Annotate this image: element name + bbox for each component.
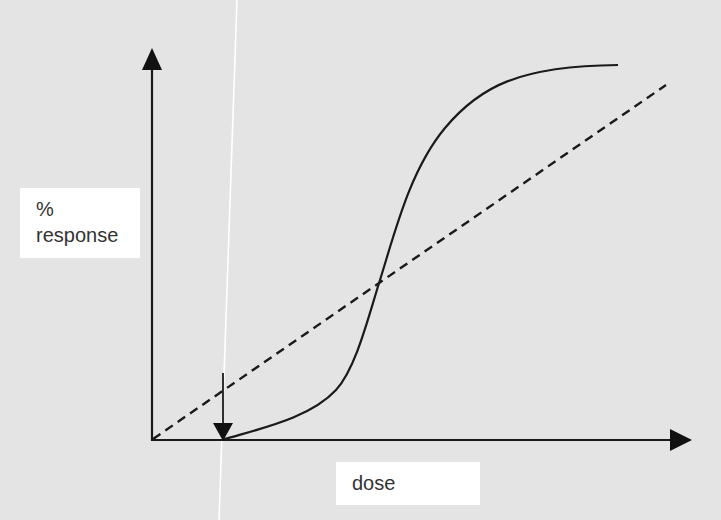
scan-artifact-line bbox=[219, 0, 237, 520]
y-axis-arrowhead-icon bbox=[142, 48, 162, 70]
linear-response-dashed-line bbox=[153, 85, 666, 439]
x-axis-arrowhead-icon bbox=[670, 429, 692, 451]
x-axis-label-box: dose bbox=[336, 462, 480, 505]
dose-response-diagram bbox=[0, 0, 721, 520]
y-axis-label-response: response bbox=[36, 222, 140, 248]
x-axis-label-dose: dose bbox=[352, 472, 395, 494]
sigmoid-response-curve bbox=[222, 65, 618, 440]
y-axis-label-box: % response bbox=[20, 188, 140, 258]
y-axis-label-percent: % bbox=[36, 196, 140, 222]
